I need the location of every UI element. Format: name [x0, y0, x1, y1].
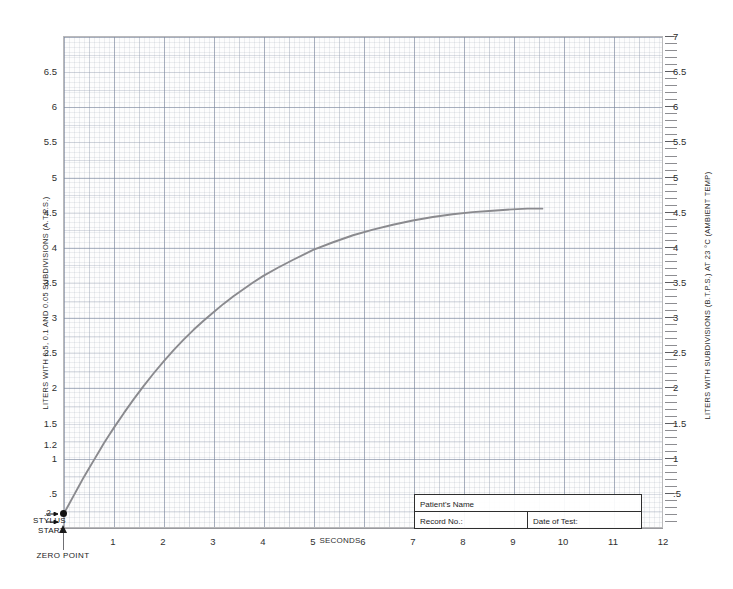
y-tick-left-1.5: 1.5 — [44, 417, 57, 428]
y-tick-right-6.5: 6.5 — [673, 66, 686, 77]
y-tick-left-2: 2 — [52, 382, 57, 393]
y-tick-left-1: 1 — [52, 452, 57, 463]
x-tick-10: 10 — [558, 536, 569, 547]
y-tick-right-7: 7 — [673, 31, 678, 42]
stylus-label: STYLUS — [33, 516, 66, 525]
y-tick-left-1.2: 1.2 — [44, 438, 57, 449]
y-tick-right-6: 6 — [673, 101, 678, 112]
y-tick-right-4: 4 — [673, 241, 678, 252]
plot-area — [63, 36, 663, 528]
form-row-record: Record No.: Date of Test: — [415, 512, 641, 529]
y-tick-right-2.5: 2.5 — [673, 347, 686, 358]
patient-name-field[interactable]: Patient's Name — [415, 495, 641, 511]
x-tick-1: 1 — [110, 536, 115, 547]
y-tick-right-3: 3 — [673, 312, 678, 323]
y-tick-right-.5: .5 — [673, 487, 681, 498]
x-tick-3: 3 — [210, 536, 215, 547]
y-tick-right-5.5: 5.5 — [673, 136, 686, 147]
y-axis-right-ticks: .511.522.533.544.555.566.57 — [663, 0, 723, 589]
x-tick-8: 8 — [460, 536, 465, 547]
spirogram-curve — [64, 37, 662, 527]
x-axis-title: SECONDS — [320, 536, 361, 545]
y-tick-left-3: 3 — [52, 312, 57, 323]
y-tick-right-2: 2 — [673, 382, 678, 393]
y-tick-right-3.5: 3.5 — [673, 277, 686, 288]
y-tick-left-5: 5 — [52, 171, 57, 182]
spirogram-chart-page: .511.21.522.533.544.555.566.5 LITERS WIT… — [0, 0, 733, 589]
x-tick-2: 2 — [160, 536, 165, 547]
y-tick-right-5: 5 — [673, 171, 678, 182]
x-tick-7: 7 — [410, 536, 415, 547]
y-tick-right-1: 1 — [673, 452, 678, 463]
y-axis-right-title: LITERS WITH SUBDIVISIONS (B.T.P.S.) AT 2… — [703, 190, 712, 420]
y-tick-left-6: 6 — [52, 101, 57, 112]
y-tick-left-6.5: 6.5 — [44, 66, 57, 77]
y-axis-left-title: LITERS WITH 0.5, 0.1 AND 0.05 SUBDIVISIO… — [41, 200, 50, 410]
patient-info-form[interactable]: Patient's Name Record No.: Date of Test: — [414, 494, 642, 529]
y-tick-left-5.5: 5.5 — [44, 136, 57, 147]
y-tick-right-4.5: 4.5 — [673, 206, 686, 217]
x-tick-5: 5 — [310, 536, 315, 547]
curve-path — [64, 209, 542, 514]
x-tick-6: 6 — [360, 536, 365, 547]
form-row-name: Patient's Name — [415, 495, 641, 512]
y-tick-right-1.5: 1.5 — [673, 417, 686, 428]
x-tick-9: 9 — [510, 536, 515, 547]
date-of-test-field[interactable]: Date of Test: — [528, 512, 641, 529]
y-tick-left-4: 4 — [52, 241, 57, 252]
record-no-field[interactable]: Record No.: — [415, 512, 528, 529]
zero-point-label: ZERO POINT — [37, 551, 90, 560]
x-tick-4: 4 — [260, 536, 265, 547]
y-tick-left-.5: .5 — [49, 487, 57, 498]
x-tick-11: 11 — [608, 536, 618, 547]
x-tick-12: 12 — [658, 536, 669, 547]
start-label: START — [38, 526, 65, 535]
